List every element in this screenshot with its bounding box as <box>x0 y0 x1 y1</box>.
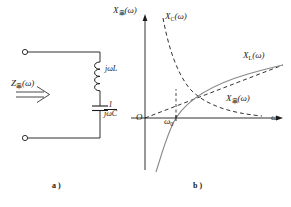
curve-xl <box>145 65 283 118</box>
y-axis <box>143 14 148 170</box>
reactance-plot <box>131 14 283 172</box>
x-axis <box>131 116 283 121</box>
x-axis-label: ω <box>271 113 277 122</box>
capacitor-label: 1 jωC <box>104 101 117 118</box>
impedance-label: Z串(ω) <box>11 79 34 89</box>
y-axis-label: X串(ω) <box>113 6 137 16</box>
capacitor-denominator: jωC <box>104 110 117 118</box>
curve-xc-label: XC(ω) <box>165 12 187 23</box>
circuit-diagram <box>16 49 108 140</box>
caption-b: b ) <box>193 182 202 190</box>
figure-container: Z串(ω) jωL 1 jωC a ) X串(ω) XC(ω) XL(ω) X串… <box>0 0 291 207</box>
inductor-coil-icon <box>95 62 100 91</box>
terminal-top-icon <box>22 49 27 54</box>
resonance-label: ω0 <box>164 117 173 128</box>
curve-xs-label: X串(ω) <box>226 94 250 104</box>
curve-xs <box>156 65 283 172</box>
terminal-bottom-icon <box>22 135 27 140</box>
curve-xl-label: XL(ω) <box>243 51 265 62</box>
origin-label: O <box>136 113 143 122</box>
caption-a: a ) <box>52 182 61 190</box>
inductor-label: jωL <box>105 65 117 73</box>
